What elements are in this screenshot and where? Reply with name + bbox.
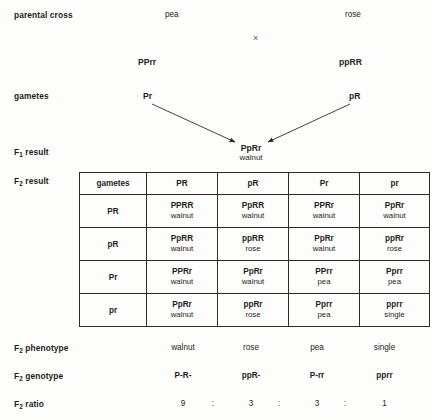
f1-phenotype: walnut <box>211 153 291 163</box>
stage-label-tail: result <box>23 176 49 186</box>
punnett-col-header-1: pR <box>218 173 289 195</box>
f2-phenotype-value-1: rose <box>226 343 276 352</box>
punnett-cell-phenotype: walnut <box>147 277 217 288</box>
punnett-cell-phenotype: walnut <box>360 211 429 222</box>
punnett-cell-genotype: PpRr <box>360 201 429 212</box>
stage-label-gametes: gametes <box>14 91 49 101</box>
punnett-cell-phenotype: walnut <box>289 211 359 222</box>
punnett-cell: PPRR walnut <box>147 195 218 228</box>
punnett-cell: PpRR walnut <box>147 228 218 261</box>
cross-symbol: × <box>253 33 258 43</box>
stage-label-f1-result: F1 result <box>14 147 49 157</box>
punnett-row: PR PPRR walnut PpRR walnut PPRr walnut P… <box>80 195 430 228</box>
f2-genotype-value-2: P-rr <box>292 371 342 380</box>
punnett-row: pR PpRR walnut ppRR rose PpRr walnut ppR… <box>80 228 430 261</box>
f2-ratio-separator-2: : <box>335 399 355 408</box>
parental-right-phenotype: rose <box>345 10 361 19</box>
punnett-row-header-2: Pr <box>80 261 147 294</box>
punnett-square-table: gametes PR pR Pr pr PR PPRR walnut PpRR … <box>79 172 430 327</box>
stage-label-subscript: 2 <box>19 375 23 382</box>
punnett-cell-phenotype: single <box>360 310 429 321</box>
f2-ratio-separator-1: : <box>269 399 289 408</box>
punnett-cell-phenotype: pea <box>289 277 359 288</box>
punnett-row: pr PpRr walnut ppRr rose Pprr pea pprr s… <box>80 294 430 327</box>
punnett-cell-phenotype: rose <box>360 244 429 255</box>
stage-label-subscript: 2 <box>19 180 23 187</box>
punnett-cell-genotype: PPRR <box>147 201 217 212</box>
f2-phenotype-value-3: single <box>357 343 412 352</box>
parental-left-phenotype: pea <box>165 10 179 19</box>
punnett-row-header-3: pr <box>80 294 147 327</box>
f1-result-block: PpRr walnut <box>211 143 291 163</box>
stage-label-f2-genotype: F2 genotype <box>14 371 63 381</box>
punnett-cell-phenotype: walnut <box>289 244 359 255</box>
stage-label-text: gametes <box>14 91 49 101</box>
punnett-cell-genotype: ppRr <box>218 300 288 311</box>
stage-label-f2-ratio: F2 ratio <box>14 399 44 409</box>
punnett-cell-genotype: PpRr <box>147 300 217 311</box>
punnett-row-header-0: PR <box>80 195 147 228</box>
punnett-cell-genotype: PpRr <box>218 267 288 278</box>
f2-genotype-value-1: ppR- <box>226 371 276 380</box>
punnett-cell-genotype: PPRr <box>147 267 217 278</box>
f2-genotype-value-0: P-R- <box>153 371 213 380</box>
punnett-cell: PPRr walnut <box>289 195 360 228</box>
punnett-cell-phenotype: pea <box>289 310 359 321</box>
stage-label-text: parental cross <box>14 10 73 20</box>
f2-phenotype-value-2: pea <box>292 343 342 352</box>
f1-genotype: PpRr <box>211 143 291 153</box>
punnett-cell-phenotype: walnut <box>147 244 217 255</box>
punnett-cell: Pprr pea <box>360 261 430 294</box>
punnett-cell: PpRr walnut <box>360 195 430 228</box>
punnett-cell-phenotype: rose <box>218 244 288 255</box>
punnett-cell: PPRr walnut <box>147 261 218 294</box>
punnett-cell-genotype: ppRR <box>218 234 288 245</box>
stage-label-parental-cross: parental cross <box>14 10 73 20</box>
punnett-row-header-1: pR <box>80 228 147 261</box>
punnett-cell: PPrr pea <box>289 261 360 294</box>
punnett-col-header-3: pr <box>360 173 430 195</box>
stage-label-f2-phenotype: F2 phenotype <box>14 343 69 353</box>
punnett-cell-genotype: PPRr <box>289 201 359 212</box>
punnett-col-header-0: PR <box>147 173 218 195</box>
punnett-cell: ppRr rose <box>218 294 289 327</box>
punnett-cell-genotype: pprr <box>360 300 429 311</box>
punnett-row: Pr PPRr walnut PpRr walnut PPrr pea Pprr… <box>80 261 430 294</box>
arrow-right-gamete-to-f1 <box>268 104 350 142</box>
punnett-cell-phenotype: walnut <box>147 211 217 222</box>
punnett-cell-genotype: ppRr <box>360 234 429 245</box>
punnett-cell: PpRr walnut <box>218 261 289 294</box>
punnett-header-row: gametes PR pR Pr pr <box>80 173 430 195</box>
punnett-cell: PpRR walnut <box>218 195 289 228</box>
gamete-right: pR <box>349 91 360 101</box>
arrow-left-gamete-to-f1 <box>152 104 235 142</box>
punnett-cell: Pprr pea <box>289 294 360 327</box>
parental-right-genotype: ppRR <box>339 57 362 67</box>
punnett-cell-genotype: PpRR <box>218 201 288 212</box>
punnett-col-header-2: Pr <box>289 173 360 195</box>
stage-label-subscript: 2 <box>19 347 23 354</box>
punnett-cell: PpRr walnut <box>147 294 218 327</box>
stage-label-tail: ratio <box>23 399 44 409</box>
punnett-cell-genotype: PPrr <box>289 267 359 278</box>
punnett-cell-phenotype: walnut <box>147 310 217 321</box>
stage-label-tail: result <box>23 147 49 157</box>
stage-label-tail: genotype <box>23 371 63 381</box>
punnett-cell: pprr single <box>360 294 430 327</box>
gamete-left: Pr <box>143 91 152 101</box>
punnett-cell-phenotype: rose <box>218 310 288 321</box>
punnett-corner-label: gametes <box>80 173 147 195</box>
punnett-cell-genotype: PpRR <box>147 234 217 245</box>
stage-label-f2-result: F2 result <box>14 176 49 186</box>
stage-label-subscript: 1 <box>19 151 23 158</box>
punnett-cell: PpRr walnut <box>289 228 360 261</box>
f2-phenotype-value-0: walnut <box>153 343 213 352</box>
f2-ratio-value-3: 1 <box>357 399 412 408</box>
punnett-cell-genotype: PpRr <box>289 234 359 245</box>
parental-left-genotype: PPrr <box>138 57 156 67</box>
stage-label-subscript: 2 <box>19 403 23 410</box>
punnett-cell: ppRR rose <box>218 228 289 261</box>
punnett-cell-phenotype: walnut <box>218 211 288 222</box>
f2-ratio-separator-0: : <box>203 399 223 408</box>
punnett-cell-phenotype: pea <box>360 277 429 288</box>
